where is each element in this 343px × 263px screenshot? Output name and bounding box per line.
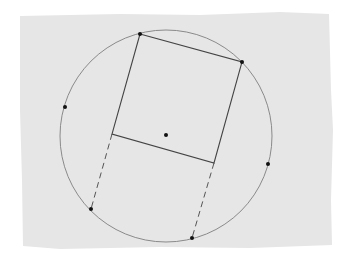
point-center (164, 133, 168, 137)
point-square-top-right (240, 60, 244, 64)
point-circle-bottom-left (89, 207, 93, 211)
point-circle-left (63, 105, 67, 109)
point-circle-bottom (190, 236, 194, 240)
diagram-canvas (0, 0, 343, 263)
point-circle-right (266, 162, 270, 166)
paper-background (20, 12, 333, 249)
point-square-top-left (138, 32, 142, 36)
